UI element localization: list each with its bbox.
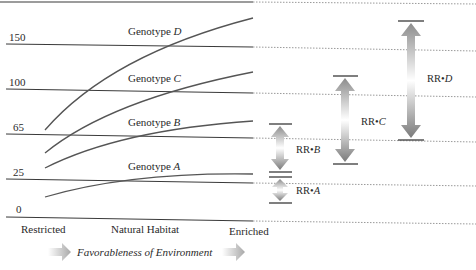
label-genotype-a: Genotype A [128, 160, 181, 172]
x-label-enriched: Enriched [229, 225, 269, 237]
dotted-extensions [253, 2, 476, 224]
line-100 [6, 89, 253, 93]
curve-genotype-c [45, 72, 253, 153]
rr-d-arrow [398, 21, 424, 140]
favorableness-arrow-right-icon [222, 243, 245, 261]
tick-100: 100 [9, 76, 26, 88]
tick-0: 0 [16, 203, 22, 215]
tick-150: 150 [9, 31, 26, 43]
label-rr-c: RR•C [361, 116, 387, 127]
favorableness-arrow-left-icon [48, 243, 71, 261]
x-label-natural-habitat: Natural Habitat [111, 223, 179, 235]
label-rr-b: RR•B [296, 144, 321, 155]
rr-c-arrow [333, 76, 358, 164]
x-axis-title: Favorableness of Environment [76, 246, 213, 258]
reference-lines [0, 2, 253, 221]
rr-b-arrow [269, 124, 292, 172]
line-65 [6, 134, 253, 138]
line-0 [6, 217, 253, 221]
label-genotype-d: Genotype D [128, 25, 182, 37]
line-150 [6, 44, 253, 47]
label-genotype-c: Genotype C [128, 72, 182, 84]
label-rr-a: RR•A [296, 185, 321, 196]
reaction-range-labels: RR•A RR•B RR•C RR•D [296, 73, 453, 196]
tick-25: 25 [13, 166, 25, 178]
curve-genotype-a [45, 174, 253, 197]
rr-a-arrow [269, 177, 292, 203]
reaction-range-diagram: 150 100 65 25 0 Genotype D Genotype C Ge… [0, 0, 476, 270]
genotype-labels: Genotype D Genotype C Genotype B Genotyp… [128, 25, 182, 172]
x-axis-categories: Restricted Natural Habitat Enriched [21, 223, 269, 237]
x-label-restricted: Restricted [21, 223, 66, 235]
label-genotype-b: Genotype B [128, 116, 181, 128]
tick-65: 65 [13, 121, 25, 133]
label-rr-d: RR•D [427, 73, 453, 84]
x-axis-title-group: Favorableness of Environment [48, 243, 245, 261]
y-axis-ticks: 150 100 65 25 0 [9, 31, 26, 215]
